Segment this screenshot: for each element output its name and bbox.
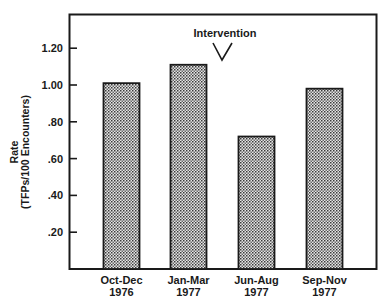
bar xyxy=(104,83,140,269)
x-tick-label: Oct-Dec xyxy=(100,274,142,286)
y-tick-label: .60 xyxy=(48,153,63,165)
y-tick-label: .20 xyxy=(48,226,63,238)
y-axis-label-line2: (TFPs/100 Encounters) xyxy=(19,95,31,209)
intervention-label: Intervention xyxy=(194,27,257,39)
x-tick-label: 1976 xyxy=(109,286,133,298)
x-tick-label: Jun-Aug xyxy=(234,274,279,286)
bar-chart: .20.40.60.801.001.20 Oct-Dec1976Jan-Mar1… xyxy=(0,0,386,303)
y-tick-label: .80 xyxy=(48,116,63,128)
x-tick-label: 1977 xyxy=(176,286,200,298)
x-tick-label: 1977 xyxy=(244,286,268,298)
x-tick-label: Sep-Nov xyxy=(302,274,348,286)
y-axis-ticks: .20.40.60.801.001.20 xyxy=(42,42,77,238)
x-axis-labels: Oct-Dec1976Jan-Mar1977Jun-Aug1977Sep-Nov… xyxy=(100,274,347,298)
bar xyxy=(307,89,343,269)
intervention-annotation: Intervention xyxy=(194,27,257,60)
x-tick-label: 1977 xyxy=(312,286,336,298)
bar xyxy=(239,137,275,269)
bars xyxy=(104,65,343,269)
intervention-arrow-icon xyxy=(213,43,232,60)
x-tick-label: Jan-Mar xyxy=(167,274,210,286)
bar xyxy=(171,65,207,269)
y-tick-label: 1.20 xyxy=(42,42,63,54)
y-tick-label: .40 xyxy=(48,189,63,201)
y-axis-label: Rate (TFPs/100 Encounters) xyxy=(8,95,31,209)
y-tick-label: 1.00 xyxy=(42,79,63,91)
